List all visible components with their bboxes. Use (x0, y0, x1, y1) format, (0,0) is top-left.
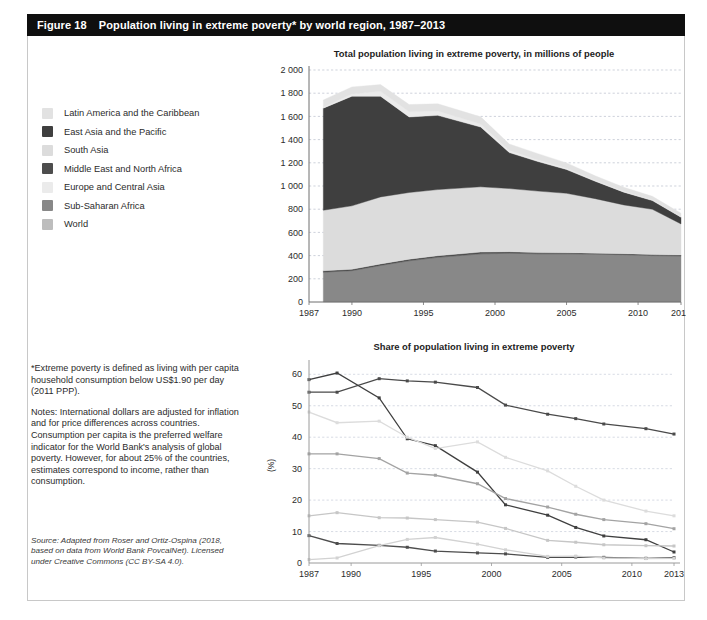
chart-total-population: Total population living in extreme pover… (262, 48, 686, 333)
svg-text:1987: 1987 (299, 569, 319, 579)
svg-text:2000: 2000 (481, 569, 501, 579)
source-text: Source: Adapted from Roser and Ortiz-Osp… (31, 536, 246, 567)
legend-item: Sub-Saharan Africa (42, 197, 252, 216)
legend-swatch (42, 219, 53, 230)
svg-text:1 000: 1 000 (280, 181, 303, 191)
svg-text:800: 800 (288, 204, 303, 214)
svg-text:50: 50 (292, 401, 302, 411)
legend-item-label: South Asia (64, 145, 108, 155)
footnote-text: *Extreme poverty is defined as living wi… (31, 363, 239, 398)
svg-text:1 800: 1 800 (280, 88, 303, 98)
svg-text:1 400: 1 400 (280, 135, 303, 145)
svg-text:2005: 2005 (552, 569, 572, 579)
figure-page: Figure 18 Population living in extreme p… (0, 0, 707, 620)
svg-text:0: 0 (297, 558, 302, 568)
legend-item-label: World (64, 219, 88, 229)
svg-text:1 600: 1 600 (280, 112, 303, 122)
figure-title: Population living in extreme poverty* by… (99, 19, 445, 31)
legend-swatch (42, 182, 53, 193)
legend-item: Europe and Central Asia (42, 178, 252, 197)
legend-item-label: Latin America and the Caribbean (64, 108, 199, 118)
legend-item: South Asia (42, 141, 252, 160)
chart-bottom-canvas: 0102030405060(%)198719901995200020052010… (262, 341, 686, 591)
svg-text:40: 40 (292, 432, 302, 442)
svg-text:1990: 1990 (341, 569, 361, 579)
figure-number: Figure 18 (37, 19, 87, 31)
chart-top-canvas: 02004006008001 0001 2001 4001 6001 8002 … (262, 48, 686, 333)
svg-text:30: 30 (292, 464, 302, 474)
svg-text:2010: 2010 (622, 569, 642, 579)
svg-text:1995: 1995 (411, 569, 431, 579)
svg-text:200: 200 (288, 274, 303, 284)
svg-text:400: 400 (288, 251, 303, 261)
svg-text:600: 600 (288, 228, 303, 238)
svg-text:2 000: 2 000 (280, 65, 303, 75)
legend-item: Latin America and the Caribbean (42, 104, 252, 123)
svg-text:1987: 1987 (299, 308, 319, 318)
legend-swatch (42, 145, 53, 156)
notes-text: Notes: International dollars are adjuste… (31, 407, 239, 488)
svg-text:0: 0 (298, 297, 303, 307)
svg-text:2000: 2000 (485, 308, 505, 318)
legend-item: World (42, 215, 252, 234)
figure-title-bar: Figure 18 Population living in extreme p… (27, 14, 685, 36)
svg-text:1 200: 1 200 (280, 158, 303, 168)
notes-block: *Extreme poverty is defined as living wi… (31, 363, 239, 497)
legend-item-label: East Asia and the Pacific (64, 127, 166, 137)
svg-text:60: 60 (292, 369, 302, 379)
svg-text:20: 20 (292, 495, 302, 505)
svg-text:1995: 1995 (413, 308, 433, 318)
svg-text:10: 10 (292, 527, 302, 537)
svg-text:1990: 1990 (342, 308, 362, 318)
legend-swatch (42, 108, 53, 119)
legend-item: Middle East and North Africa (42, 160, 252, 179)
legend-item: East Asia and the Pacific (42, 123, 252, 142)
legend-item-label: Europe and Central Asia (64, 182, 165, 192)
legend-item-label: Middle East and North Africa (64, 164, 182, 174)
svg-text:2010: 2010 (628, 308, 648, 318)
chart-share-population: Share of population living in extreme po… (262, 341, 686, 591)
legend-swatch (42, 163, 53, 174)
svg-text:2013: 2013 (664, 569, 684, 579)
svg-text:2005: 2005 (557, 308, 577, 318)
chart-legend: Latin America and the CaribbeanEast Asia… (42, 104, 252, 234)
svg-text:2013: 2013 (671, 308, 686, 318)
y-axis-label: (%) (266, 459, 276, 472)
legend-item-label: Sub-Saharan Africa (64, 201, 145, 211)
legend-swatch (42, 200, 53, 211)
legend-swatch (42, 126, 53, 137)
